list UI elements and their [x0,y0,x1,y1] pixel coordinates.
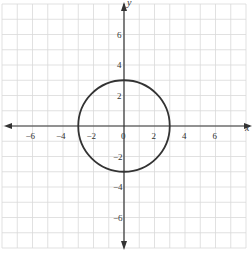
y-tick-label: 4 [117,60,122,70]
x-tick-label: 4 [182,131,187,141]
x-tick-label: −6 [26,131,36,141]
x-axis-label: x [244,122,250,133]
y-axis-label: y [126,0,132,8]
x-tick-label: 0 [121,131,126,141]
coordinate-plane: xy−6−4−20246−6−4−2246 [0,0,252,253]
x-tick-label: 6 [213,131,218,141]
y-tick-label: −2 [113,152,123,162]
y-tick-label: −6 [113,213,123,223]
tick-labels: xy−6−4−20246−6−4−2246 [26,0,251,223]
axes [4,2,252,250]
y-tick-label: −4 [113,182,123,192]
x-tick-label: −2 [87,131,97,141]
y-tick-label: 2 [117,91,122,101]
y-axis-arrow-down-icon [121,241,127,250]
x-tick-label: 2 [152,131,157,141]
y-tick-label: 6 [117,30,122,40]
x-axis-arrow-left-icon [4,123,12,129]
x-tick-label: −4 [56,131,66,141]
